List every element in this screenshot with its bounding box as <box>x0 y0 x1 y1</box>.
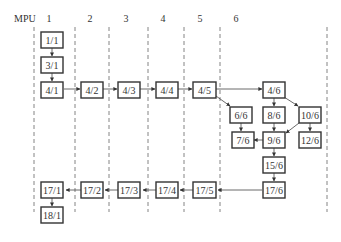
node-17-6: 17/6 <box>263 182 285 198</box>
node-17-1: 17/1 <box>41 182 63 198</box>
node-4-5: 4/5 <box>193 82 216 98</box>
column-label-6: 6 <box>234 13 239 24</box>
node-10-6: 10/6 <box>299 107 321 123</box>
node-4-1: 4/1 <box>41 82 63 98</box>
svg-text:17/5: 17/5 <box>196 185 214 196</box>
node-7-6: 7/6 <box>232 132 254 148</box>
column-label-1: 1 <box>47 13 52 24</box>
mpu-task-diagram: MPU 1 2 3 4 5 6 <box>0 0 341 242</box>
node-6-6: 6/6 <box>230 107 252 123</box>
svg-text:17/2: 17/2 <box>83 185 101 196</box>
node-8-6: 8/6 <box>263 107 285 123</box>
svg-text:12/6: 12/6 <box>301 135 319 146</box>
node-9-6: 9/6 <box>263 132 285 148</box>
svg-text:3/1: 3/1 <box>46 60 59 71</box>
node-17-5: 17/5 <box>193 182 216 198</box>
svg-text:8/6: 8/6 <box>268 110 281 121</box>
svg-text:17/1: 17/1 <box>43 185 61 196</box>
svg-text:18/1: 18/1 <box>43 210 61 221</box>
node-4-4: 4/4 <box>156 82 178 98</box>
column-label-2: 2 <box>88 13 93 24</box>
node-1-1: 1/1 <box>41 32 63 48</box>
svg-text:4/3: 4/3 <box>123 85 136 96</box>
node-18-1: 18/1 <box>41 207 63 223</box>
mpu-axis-label: MPU <box>14 13 36 24</box>
node-4-2: 4/2 <box>81 82 103 98</box>
node-15-6: 15/6 <box>263 157 285 173</box>
column-label-4: 4 <box>161 13 166 24</box>
svg-text:6/6: 6/6 <box>235 110 248 121</box>
svg-text:4/2: 4/2 <box>86 85 99 96</box>
node-17-3: 17/3 <box>118 182 140 198</box>
node-17-4: 17/4 <box>156 182 178 198</box>
node-4-6: 4/6 <box>263 82 285 98</box>
column-label-5: 5 <box>198 13 203 24</box>
svg-text:4/1: 4/1 <box>46 85 59 96</box>
svg-text:4/4: 4/4 <box>161 85 174 96</box>
column-label-3: 3 <box>124 13 129 24</box>
node-4-3: 4/3 <box>118 82 140 98</box>
svg-text:1/1: 1/1 <box>46 35 59 46</box>
svg-text:4/5: 4/5 <box>198 85 211 96</box>
svg-text:4/6: 4/6 <box>268 85 281 96</box>
svg-text:10/6: 10/6 <box>301 110 319 121</box>
node-12-6: 12/6 <box>299 132 321 148</box>
svg-text:15/6: 15/6 <box>265 160 283 171</box>
node-3-1: 3/1 <box>41 57 63 73</box>
svg-text:17/4: 17/4 <box>158 185 176 196</box>
svg-text:17/6: 17/6 <box>265 185 283 196</box>
svg-text:7/6: 7/6 <box>237 135 250 146</box>
svg-text:9/6: 9/6 <box>268 135 281 146</box>
svg-text:17/3: 17/3 <box>120 185 138 196</box>
node-17-2: 17/2 <box>81 182 103 198</box>
